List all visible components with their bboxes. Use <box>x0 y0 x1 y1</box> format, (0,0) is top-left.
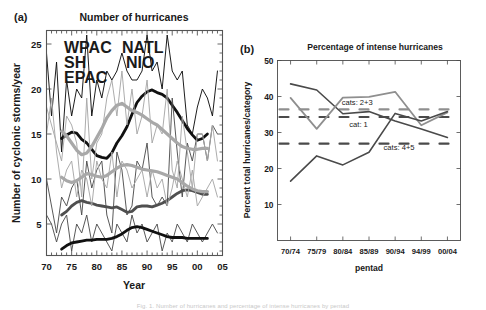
annotation-cat-1: cat: 1 <box>349 120 368 129</box>
x-tick-label: 90 <box>142 261 153 272</box>
y-tick-label: 10 <box>31 174 42 185</box>
x-tick-label: 85 <box>117 261 128 272</box>
b-x-tick-label: 85/89 <box>359 247 378 256</box>
y-tick-label: 15 <box>31 129 42 140</box>
panel-b-y-axis-title: Percent total hurricanes/category <box>242 81 252 218</box>
figure-caption: Fig. 1. Number of hurricanes and percent… <box>0 303 486 309</box>
figure-root: (a) Number of hurricanes 707580859095000… <box>0 0 486 310</box>
panel-a-title: Number of hurricanes <box>79 11 188 23</box>
panel-a: (a) Number of hurricanes 707580859095000… <box>10 11 228 291</box>
y-tick-label: 25 <box>31 39 42 50</box>
x-tick-label: 75 <box>66 261 77 272</box>
b-y-tick-label: 10 <box>264 200 274 210</box>
y-tick-label: 20 <box>31 84 42 95</box>
b-x-tick-label: 70/74 <box>281 247 301 256</box>
series-cat-1 <box>291 84 448 138</box>
x-tick-label: 80 <box>91 261 102 272</box>
b-x-tick-label: 94/99 <box>412 247 431 256</box>
legend-item-nio: NIO <box>126 54 154 71</box>
y-tick-label: 5 <box>36 219 42 230</box>
x-tick-label: 05 <box>217 261 228 272</box>
panel-a-x-tick-labels: 7075808590950005 <box>41 261 228 272</box>
panel-a-tag: (a) <box>14 11 28 23</box>
b-x-tick-label: 80/84 <box>333 247 353 256</box>
series-nio-smooth <box>62 227 208 250</box>
x-tick-label: 95 <box>167 261 178 272</box>
panel-a-legend: WPAC NATL SH NIO EPAC <box>64 39 164 86</box>
panel-a-y-axis-title: Number of cyclonic storms/year <box>10 63 22 223</box>
legend-item-epac: EPAC <box>64 69 108 86</box>
b-x-tick-label: 75/79 <box>307 247 326 256</box>
panel-b-tag: (b) <box>240 43 254 55</box>
panel-b-x-tick-labels: 70/7475/7980/8485/8990/9494/9900/04 <box>281 247 458 256</box>
panel-b-title: Percentage of intense hurricanes <box>307 42 443 52</box>
x-tick-label: 00 <box>192 261 203 272</box>
b-y-tick-label: 50 <box>264 56 274 66</box>
b-y-tick-label: 40 <box>264 92 274 102</box>
panel-a-y-tick-labels: 510152025 <box>31 39 42 230</box>
panel-b: (b) Percentage of intense hurricanes 70/… <box>240 42 461 273</box>
series-cats-4-5 <box>291 112 448 181</box>
x-tick-label: 70 <box>41 261 52 272</box>
b-x-tick-label: 90/94 <box>386 247 406 256</box>
panel-b-series-annotations: cats: 2+3cat: 1cats: 4+5 <box>342 98 415 152</box>
panel-a-x-axis-title: Year <box>123 279 145 291</box>
b-y-tick-label: 20 <box>264 164 274 174</box>
figure-svg: (a) Number of hurricanes 707580859095000… <box>0 0 486 310</box>
panel-b-y-tick-labels: 1020304050 <box>264 56 274 210</box>
annotation-cats-2-3: cats: 2+3 <box>342 98 373 107</box>
annotation-cats-4-5: cats: 4+5 <box>384 143 415 152</box>
panel-b-x-axis-title: pentad <box>355 263 383 273</box>
b-x-tick-label: 00/04 <box>438 247 458 256</box>
series-nio <box>47 215 218 251</box>
b-y-tick-label: 30 <box>264 128 274 138</box>
